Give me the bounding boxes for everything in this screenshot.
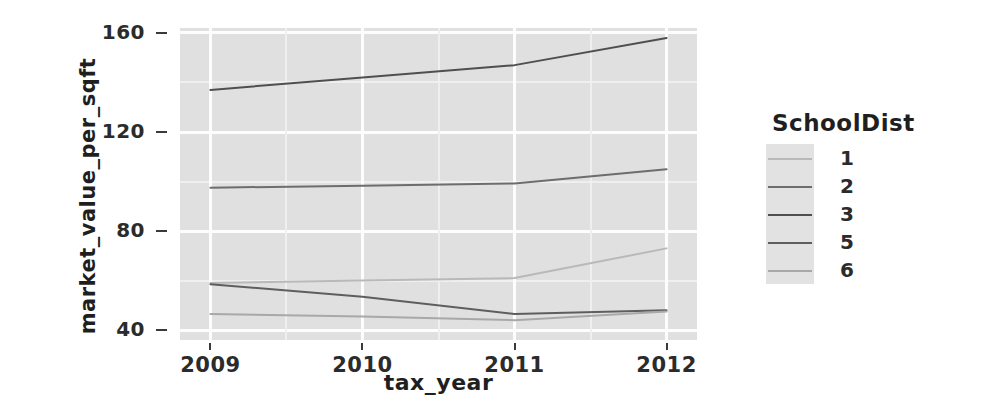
- legend-key-swatch: [766, 256, 814, 284]
- legend-item[interactable]: 1: [766, 144, 966, 172]
- y-tick-label: 160: [60, 20, 145, 44]
- legend-items: 12356: [766, 144, 966, 284]
- x-tick-mark: [361, 343, 363, 350]
- y-tick-mark: [156, 131, 167, 133]
- legend-item-label: 5: [840, 232, 854, 252]
- y-tick-label: 40: [60, 317, 145, 341]
- plot-panel: [180, 28, 697, 340]
- chart-figure: 4080120160 market_value_per_sqft 2009201…: [0, 0, 992, 403]
- x-tick-mark: [666, 343, 668, 350]
- y-tick-label: 80: [60, 218, 145, 242]
- legend-item-label: 6: [840, 260, 854, 280]
- legend-item-label: 2: [840, 176, 854, 196]
- x-tick-mark: [209, 343, 211, 350]
- legend-item[interactable]: 5: [766, 228, 966, 256]
- legend-key-swatch: [766, 172, 814, 200]
- series-lines: [180, 28, 697, 340]
- legend: SchoolDist 12356: [766, 110, 966, 284]
- y-tick-mark: [156, 329, 167, 331]
- legend-key-swatch: [766, 200, 814, 228]
- y-axis-title: market_value_per_sqft: [76, 46, 100, 346]
- y-tick-mark: [156, 32, 167, 34]
- y-tick-mark: [156, 230, 167, 232]
- x-tick-mark: [514, 343, 516, 350]
- series-line: [210, 248, 666, 283]
- legend-key-swatch: [766, 144, 814, 172]
- legend-item[interactable]: 2: [766, 172, 966, 200]
- series-line: [210, 169, 666, 188]
- legend-item-label: 3: [840, 204, 854, 224]
- legend-item[interactable]: 3: [766, 200, 966, 228]
- legend-title: SchoolDist: [772, 110, 966, 136]
- y-tick-label: 120: [60, 119, 145, 143]
- legend-item-label: 1: [840, 148, 854, 168]
- series-line: [210, 38, 666, 90]
- legend-item[interactable]: 6: [766, 256, 966, 284]
- series-line: [210, 284, 666, 314]
- legend-key-swatch: [766, 228, 814, 256]
- x-axis-title: tax_year: [180, 370, 697, 395]
